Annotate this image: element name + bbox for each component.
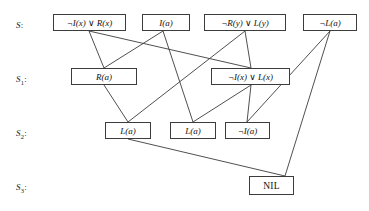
clause-text: R(a): [96, 72, 112, 82]
resolution-edge-not-La-to-NIL: [285, 31, 330, 176]
row-label-colon: :: [24, 74, 27, 84]
clause-text: L(a): [185, 126, 201, 136]
clause-text: ¬R(y) ∨ L(y): [221, 18, 269, 28]
resolution-edge-I-R-to-Ra: [89, 31, 104, 68]
clause-text: ¬I(x) ∨ L(x): [228, 72, 273, 82]
clause-box-n9[interactable]: NIL: [249, 176, 294, 195]
clause-text: I(a): [159, 18, 173, 28]
clause-box-n2[interactable]: ¬R(y) ∨ L(y): [204, 14, 286, 31]
row-label-s2: S2:: [16, 128, 27, 140]
row-label-s: S:: [16, 20, 23, 30]
clause-box-n4[interactable]: R(a): [71, 68, 137, 85]
row-label-s1: S1:: [16, 74, 27, 86]
resolution-edge-I-L-to-not-Ia: [247, 85, 251, 122]
resolution-edge-Ia-to-La2: [163, 31, 193, 122]
row-label-colon: :: [24, 128, 27, 138]
clause-box-n3[interactable]: ¬L(a): [303, 14, 357, 31]
clause-box-n5[interactable]: ¬I(x) ∨ L(x): [211, 68, 290, 85]
clause-text: ¬I(x) ∨ R(x): [67, 18, 113, 28]
clause-box-n7[interactable]: L(a): [170, 122, 216, 139]
clause-text: ¬L(a): [319, 18, 341, 28]
edge-layer: [0, 0, 369, 211]
clause-box-n0[interactable]: ¬I(x) ∨ R(x): [53, 14, 126, 31]
clause-text: L(a): [120, 126, 136, 136]
row-label-colon: :: [21, 20, 24, 30]
row-label-colon: :: [24, 182, 27, 192]
clause-box-n8[interactable]: ¬I(a): [225, 122, 270, 139]
resolution-edge-La-to-NIL: [128, 139, 285, 176]
row-label-s3: S3:: [16, 182, 27, 194]
clause-box-n6[interactable]: L(a): [105, 122, 151, 139]
resolution-edge-Ra-to-La: [104, 85, 128, 122]
clause-text: NIL: [263, 181, 280, 191]
resolution-tree-diagram: S:S1:S2:S3: ¬I(x) ∨ R(x)I(a)¬R(y) ∨ L(y)…: [0, 0, 369, 211]
clause-text: ¬I(a): [238, 126, 258, 136]
resolution-edge-I-L-to-La2: [193, 85, 251, 122]
resolution-edge-R-L-to-I-L: [245, 31, 251, 68]
clause-box-n1[interactable]: I(a): [142, 14, 190, 31]
